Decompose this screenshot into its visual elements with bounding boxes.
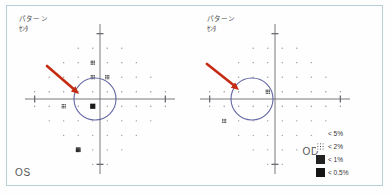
report-page: パターン ｾﾝﾀ OS パターン ｾﾝﾀ OD < 5% < 2% [0,0,391,195]
report-frame: パターン ｾﾝﾀ OS パターン ｾﾝﾀ OD < 5% < 2% [6,5,383,186]
legend-item: < 0.5% [316,167,348,178]
legend-label: < 5% [328,130,343,137]
legend-item: < 5% [316,128,343,139]
stipple-sparse-icon [316,129,325,138]
probability-legend: < 5% < 2% < 1% < 0.5% [316,128,374,178]
legend-item: < 1% [316,154,343,165]
legend-item: < 2% [316,141,343,152]
legend-label: < 1% [328,156,343,163]
solid-black-icon [316,168,325,177]
legend-label: < 0.5% [328,169,348,176]
legend-label: < 2% [328,143,343,150]
stipple-dense-icon [316,155,325,164]
panel-os: パターン ｾﾝﾀ OS [7,6,195,185]
eye-label-os: OS [15,167,31,178]
stipple-medium-icon [316,142,325,151]
visual-field-plot-os [7,6,195,187]
